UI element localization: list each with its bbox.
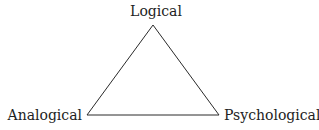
vertex-label-psychological: Psychological: [224, 107, 319, 123]
vertex-label-analogical: Analogical: [7, 107, 83, 123]
vertex-label-logical: Logical: [130, 3, 182, 19]
triangle-diagram: Logical Analogical Psychological: [0, 0, 319, 130]
triangle-shape: [87, 25, 219, 115]
diagram-svg: Logical Analogical Psychological: [0, 0, 319, 130]
